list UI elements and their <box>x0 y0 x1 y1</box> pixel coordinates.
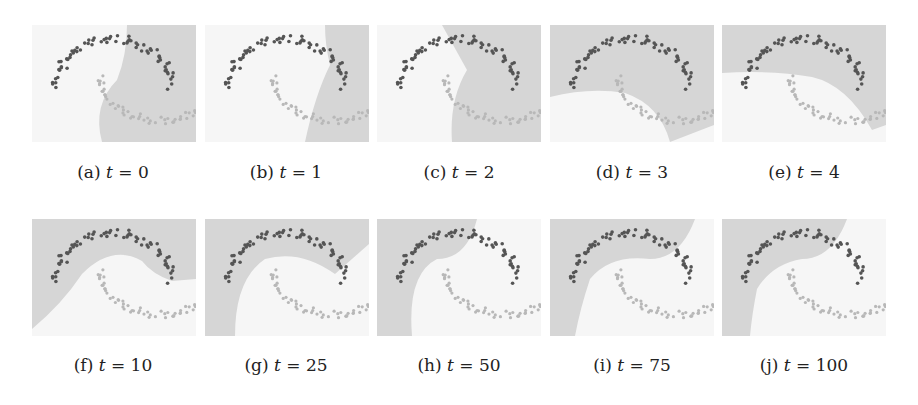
caption-i: (i) t = 75 <box>542 355 722 375</box>
decision-boundary-plot <box>550 219 714 336</box>
decision-boundary-plot <box>32 219 196 336</box>
caption-j: (j) t = 100 <box>714 355 894 375</box>
caption-h: (h) t = 50 <box>369 355 549 375</box>
decision-boundary-plot <box>205 219 369 336</box>
caption-b: (b) t = 1 <box>196 162 376 182</box>
caption-c: (c) t = 2 <box>369 162 549 182</box>
caption-g: (g) t = 25 <box>196 355 376 375</box>
decision-boundary-plot <box>722 25 886 142</box>
caption-a: (a) t = 0 <box>23 162 203 182</box>
caption-d: (d) t = 3 <box>542 162 722 182</box>
decision-boundary-plot <box>377 219 541 336</box>
decision-boundary-plot <box>550 25 714 142</box>
decision-boundary-plot <box>377 25 541 142</box>
caption-f: (f) t = 10 <box>23 355 203 375</box>
caption-e: (e) t = 4 <box>714 162 894 182</box>
decision-boundary-plot <box>32 25 196 142</box>
decision-boundary-plot <box>205 25 369 142</box>
decision-boundary-plot <box>722 219 886 336</box>
